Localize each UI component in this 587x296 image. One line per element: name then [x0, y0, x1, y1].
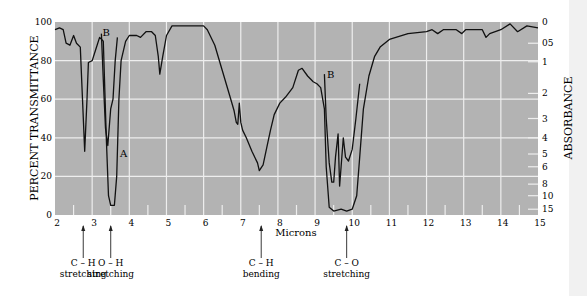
x-tick-label: 14 [497, 218, 509, 228]
y-tick-label: 40 [41, 133, 53, 143]
y-tick-label: 0 [46, 210, 52, 220]
absorbance-tick-label: 2 [542, 88, 548, 98]
x-tick-label: 15 [534, 218, 546, 228]
x-axis-label: Microns [275, 227, 316, 238]
arrow-up-icon [81, 225, 85, 231]
absorbance-tick-label: 8 [542, 179, 548, 189]
x-tick-label: 2 [54, 218, 60, 228]
absorbance-tick-label: 10 [542, 191, 554, 201]
x-tick-label: 11 [386, 218, 397, 228]
annotation-label: C – H [71, 258, 96, 268]
annotation-label: bending [243, 269, 280, 279]
annotation-label: stretching [87, 269, 134, 279]
band-annotations: C – HstretchingO – HstretchingC – Hbendi… [60, 225, 370, 279]
y-tick-label: 100 [35, 17, 52, 27]
curve-label: B [103, 27, 110, 38]
annotation-label: O – H [98, 258, 124, 268]
curve-label: B [327, 69, 334, 80]
x-tick-label: 3 [91, 218, 97, 228]
absorbance-tick-label: 1 [542, 57, 548, 67]
absorbance-tick-label: 0 [542, 17, 548, 27]
x-tick-label: 7 [240, 218, 246, 228]
absorbance-tick-label: 3 [542, 114, 548, 124]
curve-label: A [119, 148, 128, 159]
y-tick-label: 60 [41, 94, 53, 104]
x-tick-label: 12 [423, 218, 434, 228]
absorbance-tick-label: 5 [542, 149, 548, 159]
x-tick-label: 10 [349, 218, 361, 228]
arrow-up-icon [109, 225, 113, 231]
arrow-up-icon [259, 225, 263, 231]
x-tick-label: 13 [460, 218, 472, 228]
y-tick-label: 80 [41, 56, 53, 66]
y-axis-label: PERCENT TRANSMITTANCE [28, 35, 41, 200]
y-tick-label: 20 [41, 171, 53, 181]
x-tick-label: 4 [128, 218, 134, 228]
ir-spectrum-chart: ABB 23456789101112131415 020406080100 00… [0, 0, 587, 296]
x-tick-label: 6 [203, 218, 209, 228]
annotation-label: C – O [334, 258, 359, 268]
annotation-label: C – H [249, 258, 274, 268]
absorbance-tick-label: 05 [542, 38, 554, 48]
absorbance-tick-label: 4 [542, 133, 548, 143]
absorbance-tick-label: 15 [542, 204, 554, 214]
x-tick-label: 5 [166, 218, 172, 228]
annotation-label: stretching [323, 269, 370, 279]
absorbance-tick-label: 6 [542, 162, 548, 172]
right-axis-label: ABSORBANCE [562, 77, 575, 161]
plot-area [55, 22, 538, 215]
